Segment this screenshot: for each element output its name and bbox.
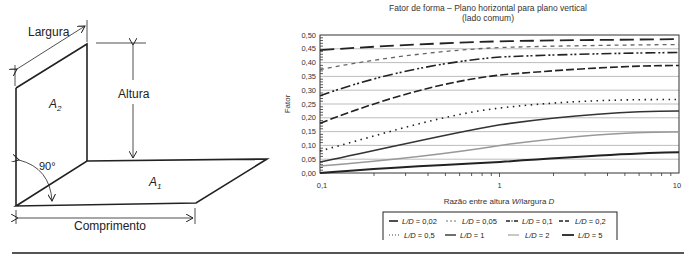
svg-text:L/D = 0,02: L/D = 0,02	[402, 217, 437, 226]
svg-text:0,15: 0,15	[301, 127, 316, 136]
form-factor-chart: Fator de forma – Plano horizontal para p…	[280, 0, 697, 240]
svg-text:0,1: 0,1	[317, 181, 327, 190]
svg-text:0,45: 0,45	[301, 44, 316, 53]
chart-svg: Fator de forma – Plano horizontal para p…	[280, 0, 697, 240]
svg-text:0,40: 0,40	[301, 58, 316, 67]
svg-text:L/D = 5: L/D = 5	[578, 231, 602, 240]
svg-text:L/D = 0,2: L/D = 0,2	[575, 217, 606, 226]
svg-text:0,35: 0,35	[301, 72, 316, 81]
svg-text:0,05: 0,05	[301, 155, 316, 164]
series-ld-0.2	[320, 66, 679, 124]
svg-text:L/D = 0,05: L/D = 0,05	[462, 217, 497, 226]
bottom-divider	[12, 252, 684, 254]
svg-text:L/D = 2: L/D = 2	[525, 231, 549, 240]
altura-label: Altura	[118, 87, 150, 101]
geometry-diagram: Largura Altura Comprimento 90° A2 A1	[0, 0, 280, 240]
svg-text:0,00: 0,00	[301, 169, 316, 178]
svg-text:L/D = 0,1: L/D = 0,1	[522, 217, 553, 226]
svg-text:L/D = 0,5: L/D = 0,5	[404, 231, 435, 240]
svg-text:1: 1	[497, 181, 501, 190]
y-axis: 0,00 0,05 0,10 0,15 0,20 0,25 0,30 0,35 …	[301, 31, 316, 178]
legend: L/D = 0,02 L/D = 0,05 L/D = 0,1 L/D = 0,…	[383, 212, 617, 240]
a1-label: A1	[148, 175, 161, 191]
vertical-plane-a2	[16, 44, 87, 206]
largura-label: Largura	[28, 25, 70, 39]
series-ld-5	[320, 152, 679, 173]
y-axis-label: Fator	[283, 94, 292, 113]
chart-title-line1: Fator de forma – Plano horizontal para p…	[389, 3, 587, 13]
svg-text:L/D = 1: L/D = 1	[460, 231, 484, 240]
comprimento-label: Comprimento	[74, 219, 146, 233]
series-ld-2	[320, 132, 679, 166]
svg-text:0,50: 0,50	[301, 31, 316, 40]
svg-text:0,20: 0,20	[301, 113, 316, 122]
x-axis-label: Razão entre altura W/largura D	[444, 197, 555, 206]
angle-label: 90°	[39, 160, 56, 172]
series-ld-0.1	[320, 53, 679, 96]
chart-title-line2: (lado comum)	[462, 13, 514, 23]
svg-text:0,25: 0,25	[301, 100, 316, 109]
svg-text:0,10: 0,10	[301, 141, 316, 150]
plane-diagram-svg: Largura Altura Comprimento 90° A2 A1	[0, 0, 280, 240]
a2-label: A2	[48, 97, 62, 113]
x-minor-ticks	[374, 173, 671, 177]
svg-text:10: 10	[673, 181, 681, 190]
x-axis: 0,1 1 10	[317, 181, 681, 190]
series-lines	[320, 39, 679, 173]
svg-text:0,30: 0,30	[301, 86, 316, 95]
